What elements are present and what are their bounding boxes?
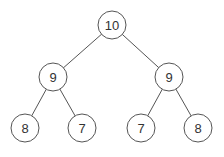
- tree-node-leaf-1: 8: [11, 114, 39, 142]
- tree-node-right: 9: [155, 63, 183, 91]
- tree-node-leaf-3: 7: [127, 114, 155, 142]
- node-label: 10: [105, 18, 119, 33]
- node-label: 8: [194, 121, 201, 136]
- nodes: 10 9 9 8 7 7 8: [11, 11, 212, 142]
- node-label: 8: [21, 121, 28, 136]
- tree-diagram: 10 9 9 8 7 7 8: [0, 0, 224, 157]
- node-label: 7: [78, 121, 85, 136]
- tree-node-root: 10: [98, 11, 126, 39]
- node-label: 7: [137, 121, 144, 136]
- node-label: 9: [49, 70, 56, 85]
- tree-node-left: 9: [39, 63, 67, 91]
- node-label: 9: [165, 70, 172, 85]
- tree-node-leaf-4: 8: [184, 114, 212, 142]
- tree-node-leaf-2: 7: [68, 114, 96, 142]
